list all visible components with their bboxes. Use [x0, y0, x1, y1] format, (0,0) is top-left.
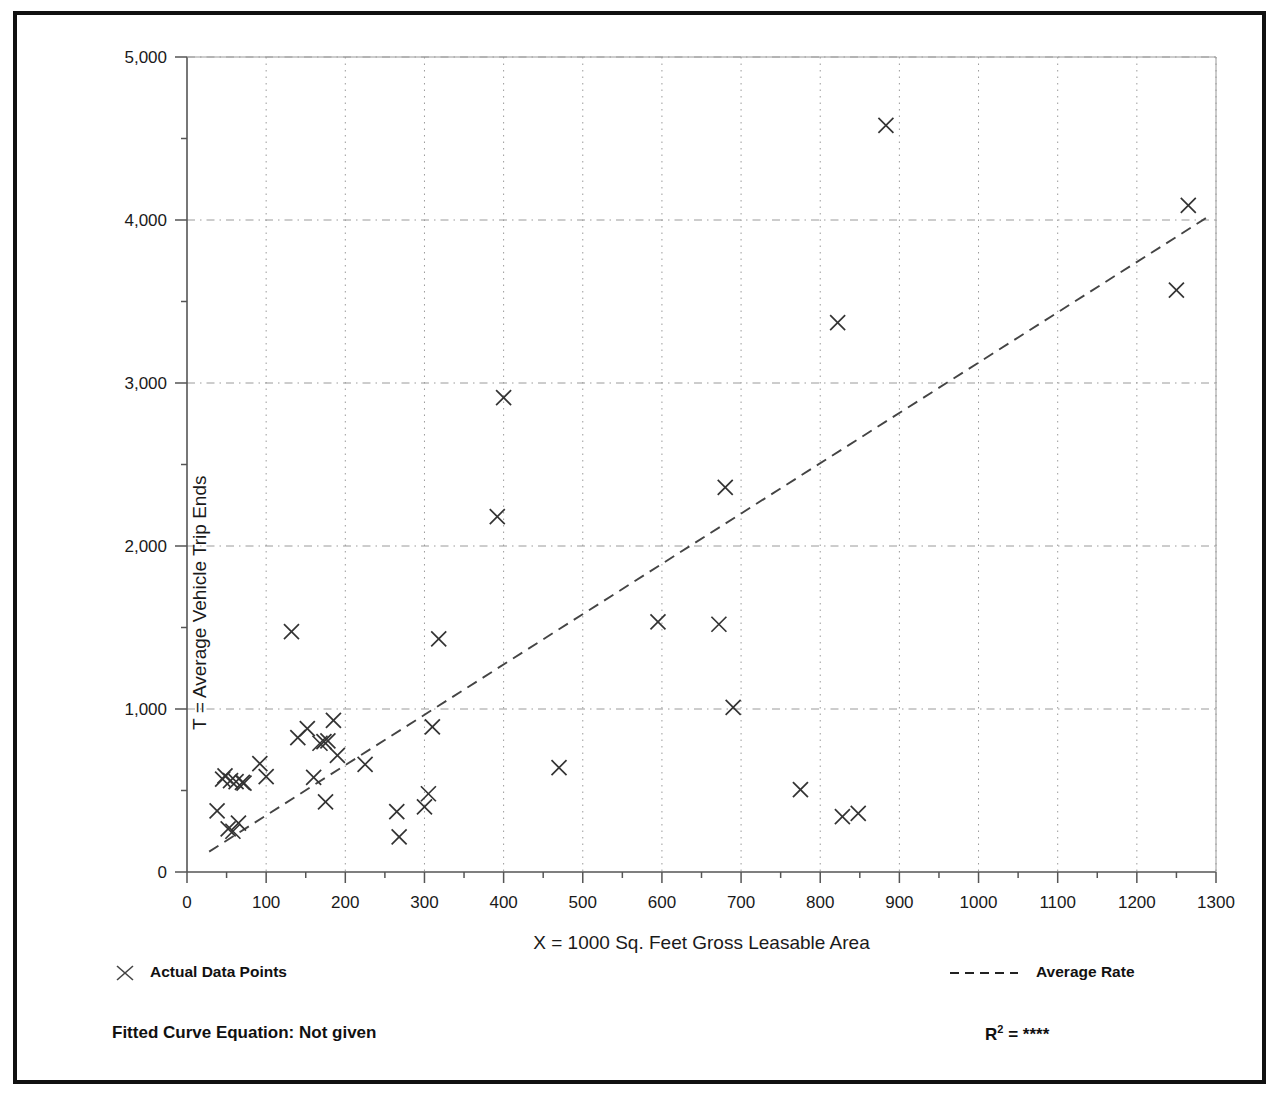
y-tick-labels: 01,0002,0003,0004,0005,000: [124, 48, 167, 882]
x-tick-label: 300: [410, 893, 438, 912]
r-squared-value: ****: [1023, 1025, 1049, 1044]
data-point-marker: [300, 721, 315, 736]
data-point-marker: [726, 700, 741, 715]
x-marker-icon: [112, 962, 140, 982]
y-tick-label: 5,000: [124, 48, 167, 67]
dashed-line-icon: [948, 966, 1020, 980]
data-point-marker: [878, 118, 893, 133]
data-point-marker: [421, 786, 436, 801]
x-tick-label: 0: [182, 893, 191, 912]
data-point-marker: [718, 480, 733, 495]
data-point-marker: [1181, 198, 1196, 213]
y-tick-label: 2,000: [124, 537, 167, 556]
x-tick-label: 400: [489, 893, 517, 912]
y-tick-label: 4,000: [124, 211, 167, 230]
x-axis-title: X = 1000 Sq. Feet Gross Leasable Area: [533, 932, 869, 954]
r-squared-text: R2 = ****: [985, 1023, 1049, 1045]
data-point-marker: [358, 757, 373, 772]
major-gridlines: [187, 57, 1216, 872]
y-axis-title: T = Average Vehicle Trip Ends: [189, 476, 211, 730]
data-point-marker: [259, 769, 274, 784]
data-point-marker: [389, 804, 404, 819]
data-point-marker: [210, 803, 225, 818]
r-squared-prefix: R: [985, 1025, 997, 1044]
y-tick-label: 1,000: [124, 700, 167, 719]
y-tick-label: 0: [158, 863, 167, 882]
data-point-marker: [425, 719, 440, 734]
data-point-marker: [552, 760, 567, 775]
data-point-marker: [851, 806, 866, 821]
x-tick-label: 800: [806, 893, 834, 912]
data-point-marker: [392, 829, 407, 844]
x-tick-label: 900: [885, 893, 913, 912]
x-tick-label: 200: [331, 893, 359, 912]
average-rate-trendline: [209, 217, 1208, 852]
data-point-marker: [1169, 283, 1184, 298]
x-tick-labels: 0100200300400500600700800900100011001200…: [182, 893, 1235, 912]
data-point-marker: [252, 756, 267, 771]
x-tick-label: 1100: [1039, 893, 1076, 912]
axis-lines: [187, 57, 1216, 872]
x-tick-label: 100: [252, 893, 280, 912]
data-point-marker: [830, 315, 845, 330]
data-point-marker: [318, 794, 333, 809]
data-point-marker: [306, 770, 321, 785]
r-squared-equals: =: [1003, 1025, 1022, 1044]
data-point-marker: [711, 617, 726, 632]
data-point-marker: [326, 713, 341, 728]
x-tick-label: 1000: [960, 893, 998, 912]
x-tick-label: 600: [648, 893, 676, 912]
data-point-marker: [835, 809, 850, 824]
data-point-marker: [431, 631, 446, 646]
y-tick-label: 3,000: [124, 374, 167, 393]
legend-label-average-rate: Average Rate: [1036, 963, 1135, 981]
x-tick-label: 700: [727, 893, 755, 912]
data-point-marker: [650, 614, 665, 629]
fitted-curve-equation-text: Fitted Curve Equation: Not given: [112, 1023, 376, 1043]
x-tick-label: 1300: [1197, 893, 1235, 912]
data-point-marker: [793, 782, 808, 797]
data-point-marker: [284, 624, 299, 639]
data-point-marker: [490, 509, 505, 524]
legend-label-actual-data-points: Actual Data Points: [150, 963, 287, 981]
axis-ticks: [175, 57, 1216, 883]
data-point-markers: [210, 118, 1196, 844]
x-tick-label: 1200: [1118, 893, 1156, 912]
data-point-marker: [330, 748, 345, 763]
x-tick-label: 500: [569, 893, 597, 912]
chart-page: 0100200300400500600700800900100011001200…: [0, 0, 1281, 1100]
